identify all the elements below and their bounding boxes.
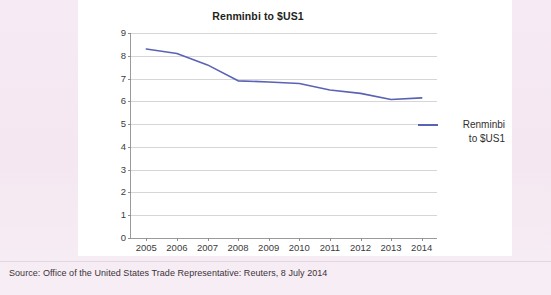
footer-divider: [0, 261, 551, 262]
x-axis-tick-mark: [361, 238, 362, 241]
chart-legend: Renminbi to $US1: [418, 118, 510, 145]
x-axis-tick-label: 2012: [350, 243, 371, 253]
y-axis-tick-label: 4: [121, 142, 126, 152]
y-axis-tick-label: 7: [121, 74, 126, 84]
x-axis-tick-label: 2006: [166, 243, 187, 253]
y-axis-tick-label: 1: [121, 210, 126, 220]
y-axis-tick-mark: [128, 238, 131, 239]
y-axis-tick-label: 2: [121, 188, 126, 198]
y-axis-tick-label: 5: [121, 119, 126, 129]
y-axis-tick-label: 9: [121, 28, 126, 38]
x-axis-tick-mark: [422, 238, 423, 241]
x-axis-tick-label: 2013: [381, 243, 402, 253]
plot-wrapper: 0123456789200520062007200820092010201120…: [105, 33, 437, 239]
y-axis-tick-label: 8: [121, 51, 126, 61]
chart-title: Renminbi to $US1: [78, 10, 438, 22]
x-axis-tick-mark: [208, 238, 209, 241]
y-axis-tick-label: 6: [121, 97, 126, 107]
series-line-renminbi: [146, 49, 421, 100]
x-axis-tick-mark: [330, 238, 331, 241]
x-axis-tick-label: 2005: [136, 243, 157, 253]
page-background: Renminbi to $US1 01234567892005200620072…: [0, 0, 551, 295]
x-axis-tick-label: 2007: [197, 243, 218, 253]
x-axis-tick-mark: [391, 238, 392, 241]
y-axis-tick-label: 3: [121, 165, 126, 175]
x-axis-tick-mark: [269, 238, 270, 241]
chart-card: Renminbi to $US1 01234567892005200620072…: [78, 0, 512, 256]
series-plot: [131, 33, 437, 238]
legend-label-line2: to $US1: [469, 133, 505, 144]
x-axis-tick-label: 2009: [258, 243, 279, 253]
legend-item-label: Renminbi to $US1: [443, 118, 505, 145]
x-axis-tick-label: 2008: [228, 243, 249, 253]
y-axis-tick-label: 0: [121, 233, 126, 243]
legend-color-swatch: [418, 124, 438, 126]
x-axis-tick-label: 2014: [411, 243, 432, 253]
plot-area: 0123456789200520062007200820092010201120…: [130, 33, 437, 239]
source-note: Source: Office of the United States Trad…: [9, 268, 327, 278]
legend-label-line1: Renminbi: [463, 119, 505, 130]
x-axis-tick-mark: [146, 238, 147, 241]
x-axis-tick-mark: [238, 238, 239, 241]
x-axis-tick-label: 2011: [320, 243, 340, 253]
x-axis-tick-mark: [299, 238, 300, 241]
x-axis-tick-mark: [177, 238, 178, 241]
x-axis-tick-label: 2010: [289, 243, 310, 253]
